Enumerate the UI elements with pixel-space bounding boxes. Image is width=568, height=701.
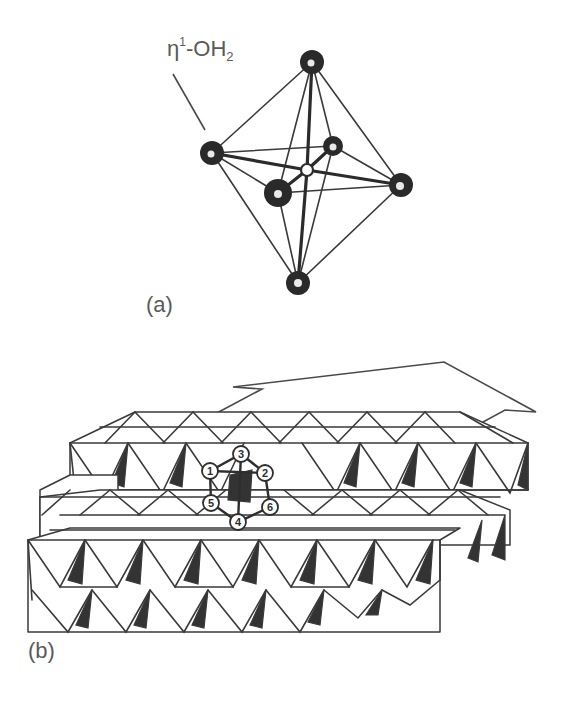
atom-bottom — [286, 271, 310, 295]
diagram-canvas: 1 2 3 4 5 — [0, 0, 568, 701]
octahedron-cluster — [173, 50, 413, 295]
svg-text:2: 2 — [262, 467, 268, 479]
octahedral-surface: 1 2 3 4 5 — [28, 412, 528, 632]
site-1: 1 — [202, 463, 218, 479]
site-6: 6 — [262, 499, 278, 515]
atom-back — [323, 136, 343, 156]
svg-text:4: 4 — [235, 516, 242, 528]
svg-text:6: 6 — [267, 501, 273, 513]
atom-right — [389, 173, 413, 197]
ligand-eta: η — [167, 36, 179, 61]
site-2: 2 — [257, 465, 273, 481]
ligand-callout-line — [173, 74, 205, 130]
ligand-label: η1-OH2 — [167, 36, 234, 64]
atom-top — [300, 50, 324, 74]
site-5: 5 — [203, 495, 219, 511]
ligand-superscript: 1 — [179, 35, 186, 49]
figure: 1 2 3 4 5 — [0, 0, 568, 701]
panel-a-label: (a) — [146, 292, 173, 318]
ligand-formula: -OH — [186, 36, 226, 61]
svg-text:1: 1 — [207, 465, 213, 477]
atom-left — [200, 141, 224, 165]
surface-front-tier — [28, 528, 460, 632]
panel-b-label: (b) — [28, 638, 55, 664]
atom-center — [301, 164, 313, 176]
svg-text:5: 5 — [208, 497, 214, 509]
svg-text:3: 3 — [238, 448, 244, 460]
atom-front — [264, 179, 292, 207]
ligand-subscript: 2 — [226, 49, 233, 64]
site-3: 3 — [233, 446, 249, 462]
surface-top-tier — [70, 412, 528, 493]
site-4: 4 — [230, 514, 246, 530]
